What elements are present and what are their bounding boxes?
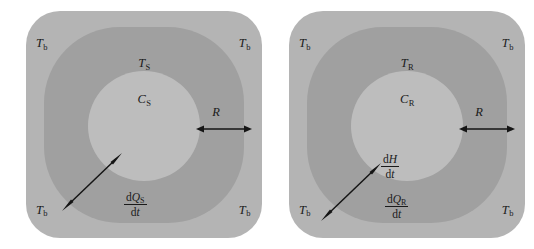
reference-temperature-label: TR <box>401 57 414 70</box>
bath-temperature-label-top-right: Tb <box>239 37 250 50</box>
heat-flow-rate-fraction: dQS dt <box>124 191 147 219</box>
enthalpy-rate-fraction: dH dt <box>381 153 399 181</box>
bath-temperature-label-top-right: Tb <box>502 37 513 50</box>
radius-label: R <box>212 106 220 119</box>
sample-panel: Tb Tb Tb Tb TS CS R dQS dt <box>26 11 262 238</box>
fraction-denominator: dt <box>124 205 147 218</box>
fraction-numerator: dH <box>381 153 399 167</box>
inner-capacitance-region <box>351 71 463 181</box>
figure-canvas: Tb Tb Tb Tb TS CS R dQS dt Tb Tb Tb Tb T <box>0 0 534 249</box>
reference-heat-capacity-label: CR <box>400 93 414 106</box>
fraction-numerator: dQS <box>124 191 147 205</box>
fraction-denominator: dt <box>381 167 399 180</box>
sample-temperature-label: TS <box>138 57 150 70</box>
bath-temperature-label-bottom-left: Tb <box>299 204 310 217</box>
fraction-denominator: dt <box>385 207 408 220</box>
radius-label: R <box>475 106 483 119</box>
sample-heat-capacity-label: CS <box>137 93 150 106</box>
bath-temperature-label-bottom-left: Tb <box>36 204 47 217</box>
bath-temperature-label-top-left: Tb <box>299 37 310 50</box>
bath-temperature-label-bottom-right: Tb <box>239 204 250 217</box>
fraction-numerator: dQR <box>385 193 408 207</box>
heat-flow-rate-fraction: dQR dt <box>385 193 408 221</box>
bath-temperature-label-top-left: Tb <box>36 37 47 50</box>
inner-capacitance-region <box>88 71 200 181</box>
bath-temperature-label-bottom-right: Tb <box>502 204 513 217</box>
reference-panel: Tb Tb Tb Tb TR CR R dH dt dQR dt <box>289 11 525 238</box>
